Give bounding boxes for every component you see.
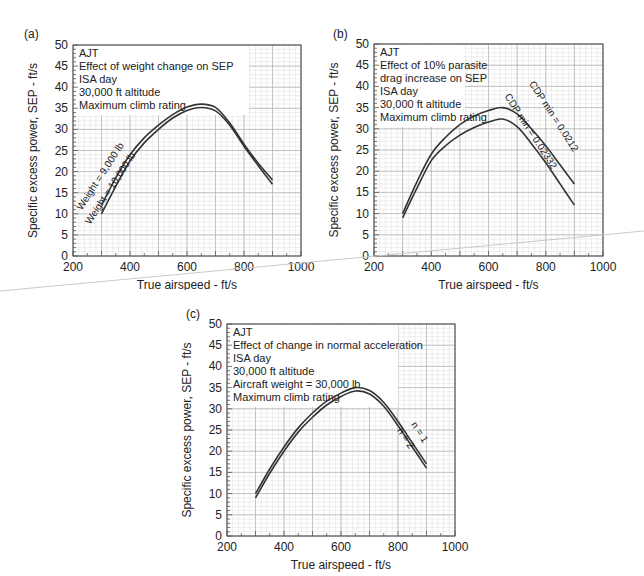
x-tick-label: 200 [217,540,237,554]
x-tick-label: 600 [331,540,351,554]
x-tick-label: 800 [388,540,408,554]
annotation-text: Aircraft weight = 30,000 lb [233,378,361,390]
annotation-text: Maximum climb rating [233,391,340,403]
y-tick-label: 25 [209,423,223,437]
y-tick-label: 20 [209,444,223,458]
x-tick-label: 400 [274,540,294,554]
annotation-text: Effect of change in normal acceleration [233,339,423,351]
y-tick-label: 45 [209,338,223,352]
chart-panel-c: 051015202530354045502004006008001000True… [0,0,644,576]
y-tick-label: 5 [215,508,222,522]
y-tick-label: 50 [209,317,223,331]
y-tick-label: 30 [209,402,223,416]
y-tick-label: 35 [209,381,223,395]
y-tick-label: 15 [209,465,223,479]
annotation-text: 30,000 ft altitude [233,365,314,377]
y-tick-label: 40 [209,359,223,373]
annotation-text: AJT [233,326,253,338]
y-tick-label: 10 [209,487,223,501]
x-axis-label: True airspeed - ft/s [291,558,391,572]
chart-svg: 051015202530354045502004006008001000True… [0,0,644,576]
x-tick-label: 1000 [442,540,469,554]
y-axis-label: Specific excess power, SEP - ft/s [180,342,194,517]
annotation-text: ISA day [233,352,271,364]
panel-label: (c) [186,307,200,321]
